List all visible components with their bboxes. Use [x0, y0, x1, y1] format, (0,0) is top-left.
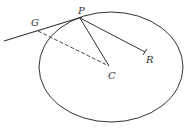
label-p: P: [77, 5, 85, 16]
ellipse: [39, 12, 183, 122]
label-g: G: [31, 17, 39, 28]
ellipse-diagram: P G C R: [0, 0, 193, 134]
label-c: C: [108, 70, 116, 81]
tangent-line: [4, 17, 82, 41]
label-r: R: [145, 54, 154, 65]
